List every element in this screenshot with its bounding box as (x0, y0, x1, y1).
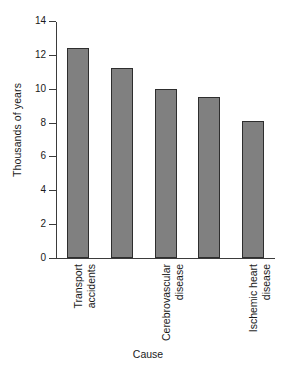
bar (67, 48, 89, 258)
bar (198, 97, 220, 258)
y-axis-tick: 6 (49, 156, 56, 157)
y-axis-line (56, 22, 57, 259)
y-axis-tick-label: 12 (35, 48, 46, 61)
x-axis-tick-label-line: Cerebrovascular (160, 264, 172, 354)
y-axis-tick: 2 (49, 224, 56, 225)
y-axis-title-text: Thousands of years (11, 83, 23, 177)
y-axis-tick-label: 14 (35, 14, 46, 27)
x-axis-tick-label: Ischemic heartdisease (247, 264, 261, 354)
y-axis-tick: 10 (49, 89, 56, 90)
y-axis-tick-label: 10 (35, 82, 46, 95)
x-axis-title-text: Cause (133, 348, 163, 360)
x-axis-tick-label: Transportaccidents (72, 264, 86, 354)
y-axis-title: Thousands of years (6, 0, 28, 260)
y-axis-tick: 8 (49, 123, 56, 124)
bar (242, 121, 264, 258)
y-axis-tick-label: 2 (40, 217, 46, 230)
bar (111, 68, 133, 258)
y-axis-tick: 0 (49, 258, 56, 259)
x-axis-tick-label-line: Ischemic heart (247, 264, 259, 354)
y-axis-tick: 14 (49, 21, 56, 22)
y-axis-tick: 12 (49, 55, 56, 56)
x-axis-line (56, 258, 275, 259)
y-axis-tick-label: 8 (40, 116, 46, 129)
bar (155, 89, 177, 258)
y-axis-tick-label: 4 (40, 183, 46, 196)
bar-chart-figure: Thousands of years 02468101214 Transport… (0, 0, 296, 388)
x-axis-title: Cause (0, 348, 296, 360)
x-axis-tick-label: Cerebrovasculardisease (160, 264, 174, 354)
x-axis-tick-label-line: disease (173, 264, 185, 354)
y-axis-tick-label: 6 (40, 149, 46, 162)
plot-area: 02468101214 (56, 22, 275, 259)
y-axis-tick-label: 0 (40, 251, 46, 264)
x-axis-tick-label-line: disease (260, 264, 272, 354)
y-axis-tick: 4 (49, 190, 56, 191)
x-axis-tick-label-line: Transport (72, 264, 84, 354)
x-axis-tick-label-line: accidents (85, 264, 97, 354)
